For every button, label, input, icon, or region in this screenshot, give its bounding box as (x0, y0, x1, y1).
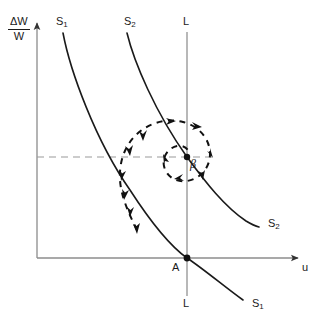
point-A-marker (184, 255, 191, 262)
curve-label-S2-top: S2 (124, 16, 136, 27)
curve-S1 (63, 33, 243, 300)
point-label-beta: β (190, 158, 196, 170)
curve-label-S1-right: S1 (252, 298, 264, 309)
point-label-A: A (172, 262, 179, 273)
line-label-L-top: L (183, 16, 189, 27)
phase-plane-figure: ΔW W (0, 0, 317, 326)
line-label-L-bottom: L (183, 298, 189, 309)
curve-S2 (127, 33, 259, 227)
diagram-canvas (0, 0, 317, 326)
curve-label-S1-top: S1 (56, 16, 68, 27)
curve-label-S2-right: S2 (268, 218, 280, 229)
spiral-trajectory (120, 121, 210, 231)
x-axis-label: u (302, 262, 308, 273)
